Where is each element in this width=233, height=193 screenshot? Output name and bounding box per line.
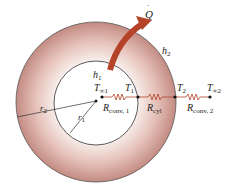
resistor-conv2-icon <box>186 94 200 100</box>
h2-label: h2 <box>162 45 171 58</box>
T2-label: T2 <box>177 82 187 95</box>
T-inf2-label: T∞2 <box>207 82 222 95</box>
thermal-diagram: Q · h2 h1 T∞1 T1 T2 T∞2 Rconv, 1 Rcyl Rc… <box>0 0 233 193</box>
node-T2 <box>173 95 176 98</box>
center-dot <box>95 100 98 103</box>
R-conv2-label: Rconv, 2 <box>186 102 214 115</box>
node-T-inf1 <box>100 95 103 98</box>
node-T1 <box>136 95 139 98</box>
heat-rate-dot: · <box>147 1 150 10</box>
node-T-inf2 <box>208 95 211 98</box>
